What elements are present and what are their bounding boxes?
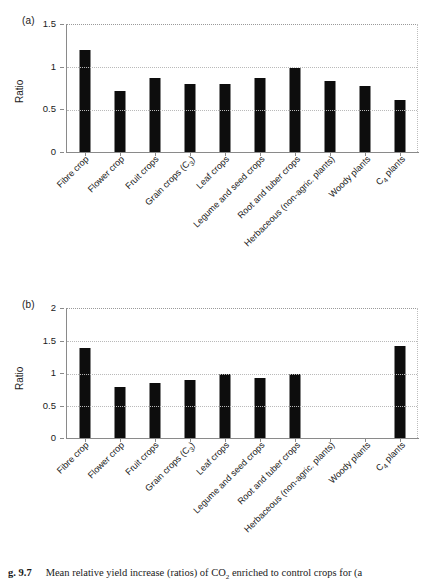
bar-cell — [172, 25, 207, 152]
figure-number: g. 9.7 — [8, 567, 32, 578]
y-tick-label: 0.5 — [43, 105, 56, 115]
panel-b-baseline — [66, 438, 419, 439]
grid-line — [67, 110, 417, 111]
y-tick-label: 0 — [51, 147, 56, 157]
panel-a-baseline — [66, 152, 419, 153]
panel-b-plot-box — [66, 308, 418, 438]
y-tick-mark — [60, 438, 64, 439]
bar-cell — [67, 25, 102, 152]
bar — [114, 387, 125, 438]
y-tick-label: 2 — [51, 303, 56, 313]
panel-a-y-axis: 00.511.5 — [0, 24, 64, 152]
bar — [79, 50, 90, 152]
bar-cell — [137, 25, 172, 152]
x-axis-label-text: Legume and seed crops — [191, 440, 266, 515]
grid-line — [67, 406, 417, 407]
panel-b-x-axis-labels: Fibre cropFlower cropFruit cropsGrain cr… — [66, 440, 418, 560]
x-axis-label-text: Flower crop — [86, 154, 126, 194]
bar-cell — [312, 25, 347, 152]
bar — [79, 348, 90, 438]
x-axis-label-text: C4 plants — [374, 154, 410, 190]
figure-9-7: (a) Ratio 00.511.5 Fibre cropFlower crop… — [0, 0, 429, 582]
bar — [254, 78, 265, 153]
x-axis-label-text: Legume and seed crops — [191, 154, 266, 229]
bar-cell — [382, 25, 417, 152]
y-tick-mark — [60, 406, 64, 407]
bar — [394, 100, 405, 152]
bar — [359, 86, 370, 152]
bar-cell — [347, 25, 382, 152]
grid-line — [67, 341, 417, 342]
y-tick-mark — [60, 109, 64, 110]
chart-panel-b: (b) Ratio 00.511.52 Fibre cropFlower cro… — [0, 292, 429, 567]
bar-cell — [277, 25, 312, 152]
bar — [149, 78, 160, 153]
x-axis-label-text: Fruit crops — [124, 154, 161, 191]
x-axis-label-text: Root and tuber crops — [235, 154, 302, 221]
figure-caption-text: Mean relative yield increase (ratios) of… — [46, 567, 363, 578]
x-axis-label-text: Root and tuber crops — [235, 440, 302, 507]
bar-cell — [242, 25, 277, 152]
figure-caption: g. 9.7Mean relative yield increase (rati… — [8, 566, 428, 582]
x-axis-label-text: Fruit crops — [124, 440, 161, 477]
y-tick-mark — [60, 373, 64, 374]
x-axis-label-text: Leaf crops — [195, 440, 232, 477]
bar — [184, 380, 195, 438]
x-axis-label-text: Leaf crops — [195, 154, 232, 191]
x-axis-label-text: Flower crop — [86, 440, 126, 480]
y-tick-label: 1.5 — [43, 19, 56, 29]
y-tick-mark — [60, 152, 64, 153]
y-tick-label: 1 — [51, 62, 56, 72]
bar — [114, 91, 125, 152]
bar-cell — [207, 25, 242, 152]
x-axis-label-text: C4 plants — [374, 440, 410, 476]
panel-a-x-axis-labels: Fibre cropFlower cropFruit cropsGrain cr… — [66, 154, 418, 274]
y-tick-label: 0.5 — [43, 401, 56, 411]
chart-panel-a: (a) Ratio 00.511.5 Fibre cropFlower crop… — [0, 8, 429, 288]
y-tick-mark — [60, 67, 64, 68]
y-tick-mark — [60, 24, 64, 25]
grid-line — [67, 67, 417, 68]
panel-b-plot-area: 00.511.52 — [0, 292, 429, 462]
bar — [254, 378, 265, 438]
panel-b-y-axis: 00.511.52 — [0, 308, 64, 438]
grid-line — [67, 374, 417, 375]
bar — [394, 346, 405, 438]
bar — [149, 383, 160, 438]
bar-cell — [102, 25, 137, 152]
bar — [184, 84, 195, 152]
y-tick-label: 1 — [51, 368, 56, 378]
y-tick-label: 0 — [51, 433, 56, 443]
y-tick-label: 1.5 — [43, 336, 56, 346]
y-tick-mark — [60, 341, 64, 342]
y-tick-mark — [60, 308, 64, 309]
panel-a-bars — [67, 25, 417, 152]
panel-a-plot-box — [66, 24, 418, 152]
panel-a-plot-area: 00.511.5 — [0, 8, 429, 178]
bar — [219, 84, 230, 152]
bar — [324, 81, 335, 152]
